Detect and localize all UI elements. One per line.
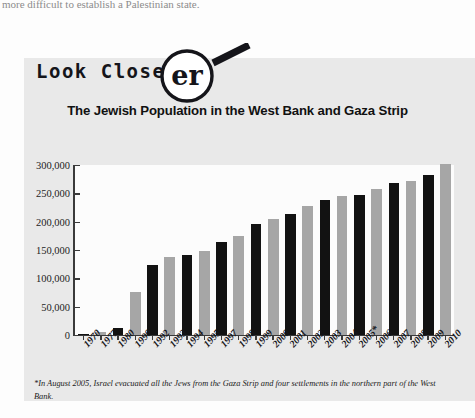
bar-1990 bbox=[130, 292, 141, 335]
bar-slot bbox=[368, 165, 385, 335]
bar-slot bbox=[230, 165, 247, 335]
bar-1997 bbox=[216, 242, 227, 335]
magnifying-glass-icon: er bbox=[145, 43, 265, 105]
bar-slot bbox=[420, 165, 437, 335]
bar-1993 bbox=[164, 257, 175, 335]
y-axis-tick-label: 300,000 bbox=[36, 160, 70, 171]
bar-2008 bbox=[406, 181, 417, 335]
bar-slot bbox=[316, 165, 333, 335]
bar-slot bbox=[247, 165, 264, 335]
bar-2004 bbox=[337, 196, 348, 335]
bar-slot bbox=[282, 165, 299, 335]
bar-2006 bbox=[371, 189, 382, 335]
y-axis-tick-label: 250,000 bbox=[36, 188, 70, 199]
look-closer-figure: Look Closer er The Jewish Population in … bbox=[12, 29, 463, 418]
y-axis-labels: 050,000100,000150,000200,000250,000300,0… bbox=[22, 132, 70, 308]
bar-2001 bbox=[285, 214, 296, 335]
y-axis-tick-label: 50,000 bbox=[41, 301, 70, 312]
y-axis-tick-label: 100,000 bbox=[36, 273, 70, 284]
x-axis-labels: 1970197719801990199219931994199519971998… bbox=[75, 340, 454, 380]
bar-slot bbox=[265, 165, 282, 335]
bar-2007 bbox=[389, 183, 400, 335]
bar-slot bbox=[161, 165, 178, 335]
y-axis-tickmark bbox=[73, 250, 80, 251]
bar-2002 bbox=[302, 206, 313, 335]
bar-slot bbox=[196, 165, 213, 335]
bar-slot bbox=[178, 165, 195, 335]
cut-off-body-text: more difficult to establish a Palestinia… bbox=[2, 0, 242, 13]
bar-1994 bbox=[182, 255, 193, 335]
y-axis-tick-label: 150,000 bbox=[36, 245, 70, 256]
bar-slot bbox=[144, 165, 161, 335]
bar-1992 bbox=[147, 265, 158, 335]
bar-1999 bbox=[251, 224, 262, 335]
y-axis-tickmark bbox=[73, 307, 80, 308]
bars-container bbox=[75, 165, 454, 335]
bar-slot bbox=[299, 165, 316, 335]
y-axis-tickmark bbox=[73, 222, 80, 223]
bar-2000 bbox=[268, 219, 279, 335]
bar-1998 bbox=[233, 236, 244, 335]
bar-slot bbox=[402, 165, 419, 335]
bar-2009 bbox=[423, 175, 434, 335]
y-axis-tickmark bbox=[73, 193, 80, 194]
y-axis-tick-label: 0 bbox=[65, 330, 70, 341]
bar-slot bbox=[213, 165, 230, 335]
bar-slot bbox=[437, 165, 454, 335]
y-axis-tick-label: 200,000 bbox=[36, 216, 70, 227]
y-axis-tickmark bbox=[73, 165, 80, 166]
bar-slot bbox=[109, 165, 126, 335]
bar-slot bbox=[385, 165, 402, 335]
chart-plot-wrapper: 050,000100,000150,000200,000250,000300,0… bbox=[22, 132, 454, 370]
y-axis-tickmark bbox=[73, 278, 80, 279]
bar-1995 bbox=[199, 251, 210, 335]
bar-2003 bbox=[320, 200, 331, 335]
bar-slot bbox=[334, 165, 351, 335]
bar-slot bbox=[92, 165, 109, 335]
bar-slot bbox=[351, 165, 368, 335]
magnified-letters: er bbox=[171, 60, 203, 91]
bar-2010 bbox=[440, 164, 451, 335]
chart-title: The Jewish Population in the West Bank a… bbox=[12, 103, 463, 118]
bar-2005 bbox=[354, 195, 365, 335]
bar-slot bbox=[127, 165, 144, 335]
look-closer-badge: Look Closer er bbox=[36, 47, 266, 102]
chart-footnote: *In August 2005, Israel evacuated all th… bbox=[34, 377, 454, 403]
